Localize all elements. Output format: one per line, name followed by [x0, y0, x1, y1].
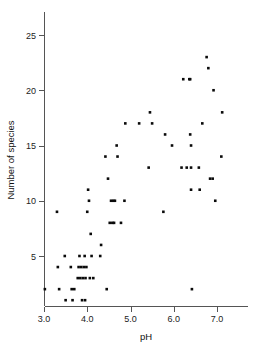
- data-point: [107, 177, 110, 180]
- data-point: [120, 222, 123, 225]
- data-point: [88, 199, 91, 202]
- data-point: [220, 155, 223, 158]
- data-point: [138, 122, 141, 125]
- data-point: [89, 233, 92, 236]
- data-point: [81, 299, 84, 302]
- data-point: [190, 188, 193, 191]
- data-point: [77, 266, 80, 269]
- data-point: [82, 277, 85, 280]
- data-point: [80, 266, 83, 269]
- data-point: [151, 122, 154, 125]
- data-point: [89, 277, 92, 280]
- data-point: [58, 288, 61, 291]
- axis-lines: [45, 12, 249, 307]
- data-point: [92, 277, 95, 280]
- data-point: [124, 122, 127, 125]
- data-point: [116, 155, 119, 158]
- data-point: [211, 177, 214, 180]
- data-point: [71, 299, 74, 302]
- data-point: [198, 166, 201, 169]
- y-tick-label: 15: [26, 141, 36, 151]
- data-point: [201, 122, 204, 125]
- data-point: [207, 67, 210, 70]
- y-tick-label: 10: [26, 196, 36, 206]
- data-point: [108, 222, 111, 225]
- data-point: [205, 56, 208, 59]
- x-axis-ticks: 3.04.05.06.07.0: [38, 307, 224, 325]
- data-point: [78, 255, 81, 258]
- data-point: [164, 133, 167, 136]
- data-point: [105, 288, 108, 291]
- data-point: [190, 144, 193, 147]
- data-point: [63, 255, 66, 258]
- data-point: [149, 111, 152, 114]
- data-point: [113, 222, 116, 225]
- data-point: [57, 266, 60, 269]
- x-tick-label: 7.0: [211, 314, 224, 324]
- y-tick-label: 5: [31, 252, 36, 262]
- data-point: [73, 288, 76, 291]
- data-point: [221, 111, 224, 114]
- x-tick-label: 6.0: [167, 314, 180, 324]
- data-point: [147, 166, 150, 169]
- data-point: [56, 211, 59, 214]
- scatter-plot-figure: 510152025 3.04.05.06.07.0 pH Number of s…: [0, 0, 258, 352]
- data-point: [171, 144, 174, 147]
- y-tick-label: 25: [26, 31, 36, 41]
- data-point: [189, 78, 192, 81]
- data-point: [85, 266, 88, 269]
- plot-canvas: 510152025 3.04.05.06.07.0 pH Number of s…: [0, 0, 258, 352]
- data-point: [86, 211, 89, 214]
- data-point: [191, 288, 194, 291]
- data-point: [90, 255, 93, 258]
- data-point: [123, 199, 126, 202]
- x-tick-label: 4.0: [81, 314, 94, 324]
- data-point: [100, 244, 103, 247]
- data-point: [209, 177, 212, 180]
- data-point: [182, 78, 185, 81]
- data-point: [79, 277, 82, 280]
- data-point: [198, 188, 201, 191]
- x-tick-label: 3.0: [38, 314, 51, 324]
- data-point: [84, 277, 87, 280]
- data-point: [82, 266, 85, 269]
- data-point: [180, 166, 183, 169]
- x-tick-label: 5.0: [124, 314, 137, 324]
- data-point: [64, 299, 67, 302]
- data-point: [114, 199, 117, 202]
- data-point: [189, 133, 192, 136]
- data-point: [44, 288, 47, 291]
- data-point: [115, 144, 118, 147]
- data-point: [214, 199, 217, 202]
- data-point: [87, 188, 90, 191]
- data-point: [70, 288, 73, 291]
- data-point: [185, 166, 188, 169]
- data-point: [104, 155, 107, 158]
- y-tick-label: 20: [26, 86, 36, 96]
- data-point: [76, 277, 79, 280]
- x-axis-title: pH: [140, 331, 152, 342]
- data-point: [162, 211, 165, 214]
- y-axis-title: Number of species: [5, 120, 16, 199]
- data-point: [83, 255, 86, 258]
- y-axis-ticks: 510152025: [26, 31, 45, 262]
- data-points-layer: [44, 56, 224, 302]
- data-point: [212, 89, 215, 92]
- data-point: [99, 255, 102, 258]
- data-point: [70, 266, 73, 269]
- data-point: [84, 299, 87, 302]
- data-point: [190, 166, 193, 169]
